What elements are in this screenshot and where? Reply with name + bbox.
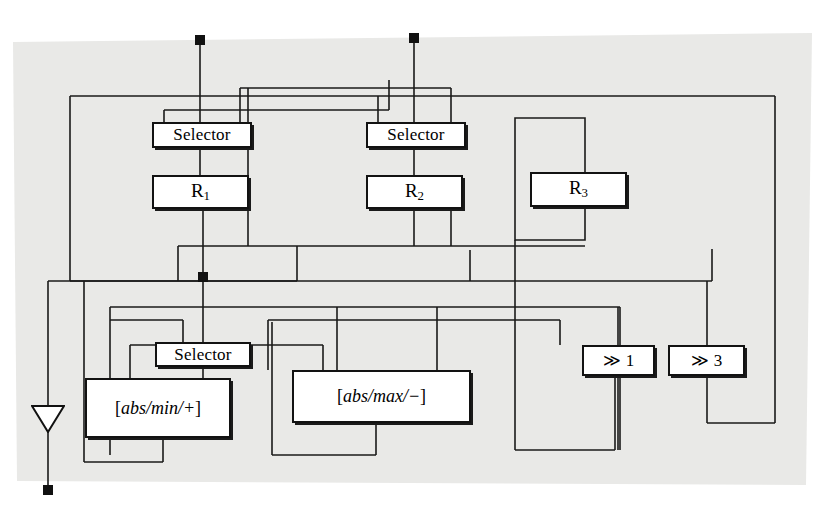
shifter-right-1-label: ≫ 1 bbox=[603, 350, 634, 371]
alu-abs-min-plus-label: [abs/min/+] bbox=[115, 398, 201, 419]
register-r3[interactable]: R3 bbox=[530, 172, 627, 207]
shifter-right-1[interactable]: ≫ 1 bbox=[582, 345, 655, 376]
selector-2[interactable]: Selector bbox=[366, 122, 466, 148]
register-r1-label: R1 bbox=[191, 180, 210, 204]
selector-2-label: Selector bbox=[387, 125, 444, 145]
selector-3-label: Selector bbox=[174, 345, 231, 365]
wire-junction bbox=[198, 272, 208, 282]
register-r2[interactable]: R2 bbox=[366, 175, 463, 209]
register-r2-label: R2 bbox=[405, 180, 424, 204]
selector-1-label: Selector bbox=[173, 125, 230, 145]
output-triangle bbox=[31, 405, 65, 433]
shifter-right-3[interactable]: ≫ 3 bbox=[668, 345, 745, 376]
alu-abs-max-minus[interactable]: [abs/max/−] bbox=[292, 370, 471, 423]
register-r1[interactable]: R1 bbox=[152, 175, 249, 209]
alu-abs-min-plus[interactable]: [abs/min/+] bbox=[85, 378, 231, 438]
input-terminal-right[interactable] bbox=[409, 33, 419, 43]
shifter-right-3-label: ≫ 3 bbox=[691, 350, 722, 371]
alu-abs-max-minus-label: [abs/max/−] bbox=[337, 386, 426, 407]
selector-3[interactable]: Selector bbox=[155, 342, 251, 367]
register-r3-label: R3 bbox=[569, 177, 588, 201]
output-terminal[interactable] bbox=[43, 485, 53, 495]
input-terminal-left[interactable] bbox=[195, 35, 205, 45]
diagram-canvas: Selector Selector Selector R1 R2 R3 [abs… bbox=[0, 0, 824, 514]
selector-1[interactable]: Selector bbox=[152, 122, 252, 148]
